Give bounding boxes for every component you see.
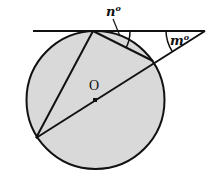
center-point [93,98,97,102]
angle-m-label: mo [170,32,190,48]
geometry-diagram: O no mo [0,0,216,180]
angle-n-label: no [106,3,121,19]
center-label: O [89,78,99,93]
